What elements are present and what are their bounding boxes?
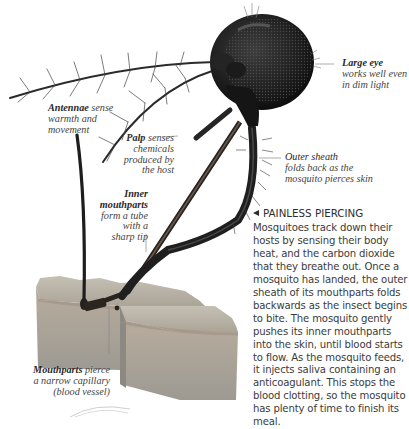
label-title: Large eye	[342, 57, 383, 68]
label-inner-mouthparts: Inner mouthparts form a tube with a shar…	[90, 189, 148, 243]
article-heading: PAINLESS PIERCING	[253, 207, 363, 219]
label-mouthparts-pierce: Mouthparts pierce a narrow capillary (bl…	[30, 365, 110, 397]
label-outer-sheath: Outer sheath folds back as the mosquito …	[285, 152, 373, 184]
left-triangle-icon	[253, 210, 259, 216]
palp	[196, 110, 230, 138]
article-body: Mosquitoes track down their hosts by sen…	[253, 222, 409, 429]
label-large-eye: Large eye works well even in dim light	[342, 58, 407, 90]
mosquito-head	[210, 3, 321, 126]
hair	[77, 135, 84, 300]
label-palp: Palp senses chemicals produced by the ho…	[110, 133, 174, 176]
label-antennae: Antennae sense warmth and movement	[48, 103, 113, 135]
